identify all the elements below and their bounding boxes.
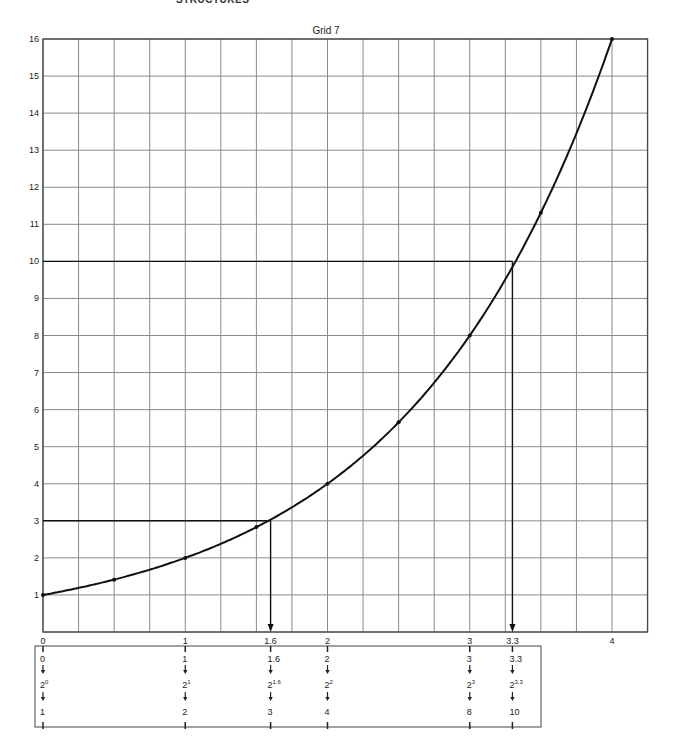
svg-text:3: 3 <box>467 636 472 646</box>
svg-text:3: 3 <box>268 707 273 717</box>
svg-text:10: 10 <box>29 256 39 266</box>
svg-text:3: 3 <box>34 516 39 526</box>
chart-title: Grid 7 <box>312 25 340 36</box>
svg-text:4: 4 <box>609 636 614 646</box>
svg-text:1: 1 <box>183 636 188 646</box>
svg-text:1.6: 1.6 <box>264 636 277 646</box>
svg-text:1: 1 <box>182 654 187 664</box>
y-axis-labels: 12345678910111213141516 <box>29 34 39 600</box>
svg-text:23: 23 <box>467 679 476 690</box>
svg-text:14: 14 <box>29 108 39 118</box>
svg-text:0: 0 <box>40 636 45 646</box>
svg-text:1.6: 1.6 <box>268 654 281 664</box>
svg-text:8: 8 <box>34 331 39 341</box>
svg-text:3: 3 <box>467 654 472 664</box>
svg-text:12: 12 <box>29 182 39 192</box>
svg-text:20: 20 <box>40 679 49 690</box>
svg-text:13: 13 <box>29 145 39 155</box>
svg-text:2: 2 <box>325 636 330 646</box>
svg-text:1: 1 <box>34 590 39 600</box>
x-axis-labels: 011.6233.34 <box>40 636 614 646</box>
svg-text:0: 0 <box>40 654 45 664</box>
svg-text:1: 1 <box>40 707 45 717</box>
svg-text:9: 9 <box>34 293 39 303</box>
svg-text:21: 21 <box>182 679 191 690</box>
svg-text:22: 22 <box>325 679 334 690</box>
svg-text:4: 4 <box>325 707 330 717</box>
svg-text:5: 5 <box>34 442 39 452</box>
svg-text:7: 7 <box>34 368 39 378</box>
svg-text:11: 11 <box>30 219 39 229</box>
svg-text:3.3: 3.3 <box>506 636 519 646</box>
svg-text:2: 2 <box>182 707 187 717</box>
svg-text:8: 8 <box>467 707 472 717</box>
svg-text:16: 16 <box>29 34 39 44</box>
svg-text:3.3: 3.3 <box>509 654 522 664</box>
svg-text:6: 6 <box>34 405 39 415</box>
svg-text:21.6: 21.6 <box>268 679 282 690</box>
exponential-chart: Grid 7 12345678910111213141516 011.6233.… <box>0 0 674 756</box>
svg-text:15: 15 <box>29 71 39 81</box>
grid-lines <box>43 39 648 632</box>
svg-text:2: 2 <box>34 553 39 563</box>
svg-text:23.3: 23.3 <box>509 679 523 690</box>
section-header: STRUCTURES <box>176 0 249 5</box>
svg-text:4: 4 <box>34 479 39 489</box>
svg-text:10: 10 <box>509 707 519 717</box>
conversion-table: 020112121.621.63222432383.323.310 <box>35 646 541 729</box>
svg-text:2: 2 <box>325 654 330 664</box>
